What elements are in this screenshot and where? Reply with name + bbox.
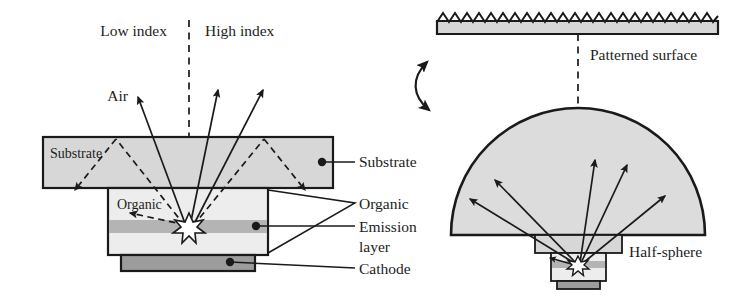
- right-panel: Patterned surface Half-sphere: [416, 13, 718, 289]
- half-sphere-label: Half-sphere: [629, 243, 702, 260]
- callout-label-organic: Organic: [359, 195, 409, 212]
- diagram-canvas: Low index High index Substrate Organic: [0, 0, 756, 303]
- callout-label-emission: Emission: [359, 218, 417, 235]
- mini-substrate-block: [535, 235, 622, 253]
- left-panel: Low index High index Substrate Organic: [43, 20, 417, 277]
- callout-emission-layer: Emission layer: [252, 218, 417, 255]
- air-label: Air: [107, 87, 129, 104]
- low-index-label: Low index: [100, 22, 167, 39]
- patterned-surface-slab: [437, 21, 718, 34]
- figure-root: Low index High index Substrate Organic: [0, 0, 756, 303]
- callout-label-cathode: Cathode: [359, 260, 411, 277]
- high-index-label: High index: [205, 22, 275, 39]
- callout-label-substrate: Substrate: [359, 153, 417, 170]
- substrate-inner-label: Substrate: [50, 146, 102, 161]
- cathode-bar: [121, 255, 255, 271]
- swap-curved-arrow-icon: [416, 62, 429, 110]
- callout-label-emission-line2: layer: [359, 238, 391, 255]
- mini-cathode-bar: [557, 281, 600, 289]
- half-sphere-dome: [451, 108, 705, 235]
- patterned-surface-label: Patterned surface: [590, 46, 697, 63]
- organic-inner-label: Organic: [117, 197, 162, 212]
- substrate-block: [43, 137, 333, 188]
